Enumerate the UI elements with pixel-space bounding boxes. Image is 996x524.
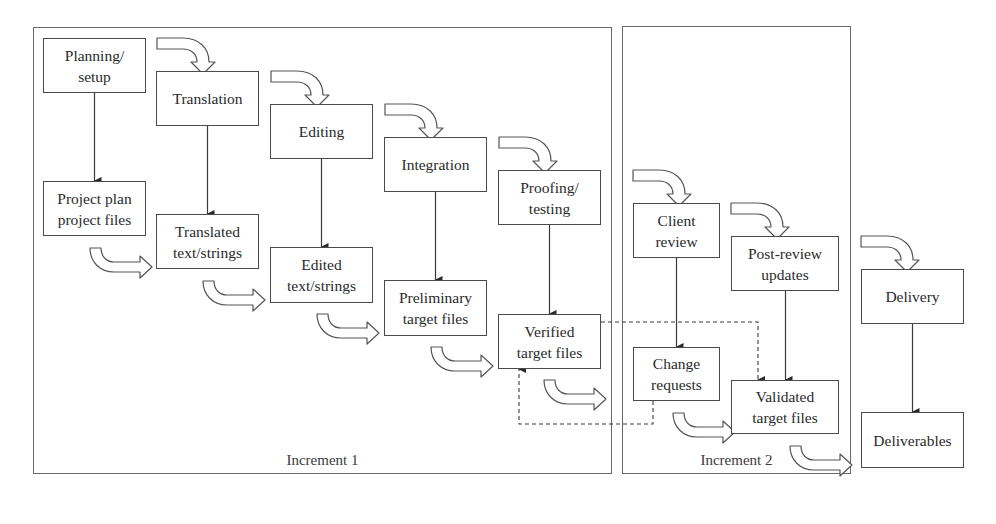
node-project-plan: Project plan project files (43, 181, 146, 236)
node-translation: Translation (156, 71, 259, 126)
node-label: Integration (401, 154, 469, 175)
node-editing: Editing (270, 104, 373, 159)
node-label: Post-review updates (748, 243, 822, 285)
process-diagram: Increment 1 Increment 2 (0, 0, 996, 524)
node-label: Client review (655, 210, 697, 252)
node-edited-text: Edited text/strings (270, 247, 373, 303)
node-label: Editing (299, 121, 345, 142)
node-integration: Integration (384, 137, 487, 192)
node-label: Project plan project files (57, 188, 131, 230)
node-label: Deliverables (873, 430, 951, 451)
node-label: Preliminary target files (399, 287, 472, 329)
node-label: Change requests (651, 353, 702, 395)
node-change-requests: Change requests (633, 347, 720, 401)
node-preliminary-target-files: Preliminary target files (384, 280, 487, 336)
node-translated-text: Translated text/strings (156, 214, 259, 269)
node-post-review-updates: Post-review updates (731, 236, 839, 291)
node-label: Translation (172, 88, 242, 109)
node-label: Validated target files (752, 386, 818, 428)
node-label: Delivery (885, 286, 939, 307)
increment-1-label: Increment 1 (34, 452, 611, 469)
node-label: Proofing/ testing (520, 177, 579, 219)
node-client-review: Client review (633, 203, 720, 258)
increment-2-label: Increment 2 (623, 452, 850, 469)
node-delivery: Delivery (861, 269, 964, 324)
node-planning-setup: Planning/ setup (43, 38, 146, 93)
node-label: Verified target files (517, 321, 583, 363)
node-proofing-testing: Proofing/ testing (498, 170, 601, 225)
node-verified-target-files: Verified target files (498, 314, 601, 369)
node-label: Translated text/strings (173, 221, 242, 263)
node-label: Edited text/strings (287, 254, 356, 296)
node-deliverables: Deliverables (861, 412, 964, 468)
node-validated-target-files: Validated target files (731, 380, 839, 434)
node-label: Planning/ setup (65, 45, 124, 87)
